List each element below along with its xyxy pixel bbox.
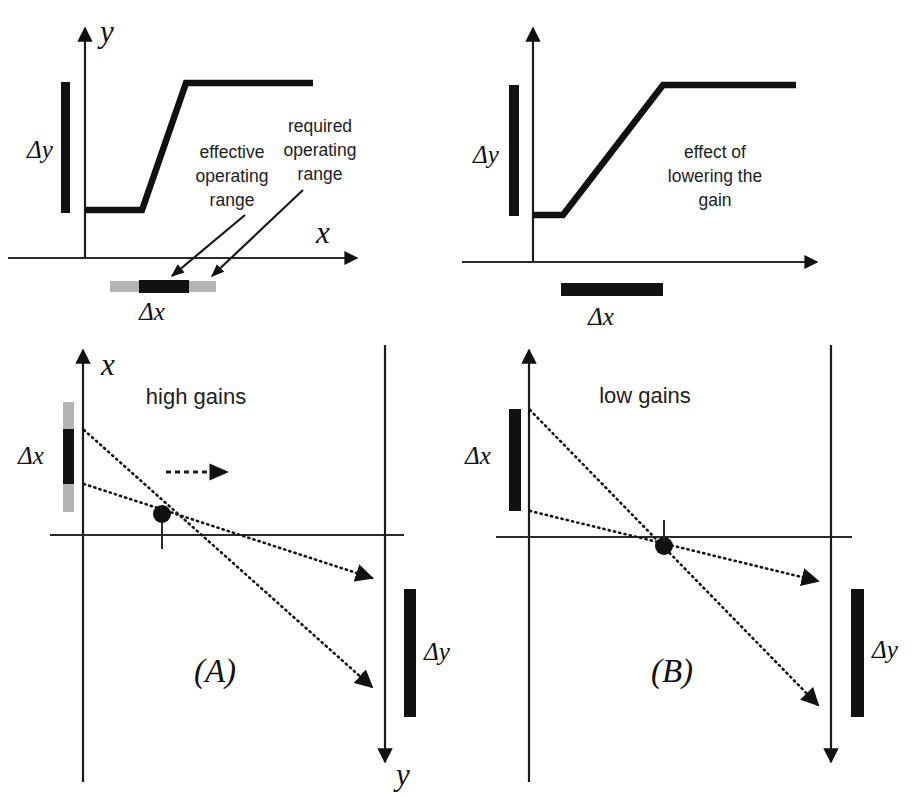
top-right-delta-x-label: Δx bbox=[587, 303, 614, 330]
bottom-left-panel: x y Δx high gains Δy (A) bbox=[17, 345, 451, 792]
top-left-delta-x-label: Δx bbox=[138, 298, 165, 325]
top-left-delta-y-label: Δy bbox=[26, 136, 54, 163]
panel-b-delta-y-label: Δy bbox=[871, 636, 899, 663]
top-right-panel: Δy Δx effect of lowering the gain bbox=[462, 28, 817, 330]
top-right-delta-y-bar bbox=[509, 85, 519, 216]
panel-a-delta-y-label: Δy bbox=[423, 638, 451, 665]
top-left-y-axis-label: y bbox=[97, 14, 114, 49]
top-left-x-axis-label: x bbox=[315, 215, 330, 250]
panel-a-ray-lower bbox=[84, 484, 372, 578]
annot-effect-line-1: effect of bbox=[684, 142, 746, 162]
panel-a-caption: high gains bbox=[146, 384, 246, 409]
annot-required-line-2: operating bbox=[284, 140, 357, 160]
panel-a-operating-point bbox=[153, 505, 171, 523]
top-right-saturation-curve bbox=[533, 85, 796, 215]
panel-a-label: (A) bbox=[194, 653, 236, 690]
top-left-effective-range-bar bbox=[139, 280, 189, 293]
annot-effective-line-2: operating bbox=[196, 166, 269, 186]
annot-required-line-1: required bbox=[288, 116, 352, 136]
panel-a-x-axis-label: x bbox=[100, 347, 115, 382]
panel-a-delta-x-black-bar bbox=[63, 429, 74, 484]
panel-a-delta-y-bar bbox=[404, 589, 416, 717]
panel-b-delta-y-bar bbox=[851, 589, 864, 717]
annot-effective-line-3: range bbox=[210, 190, 255, 210]
annot-required-line-3: range bbox=[298, 164, 343, 184]
annot-effective-arrow bbox=[172, 215, 245, 276]
top-right-delta-y-label: Δy bbox=[472, 141, 500, 168]
top-right-delta-x-bar bbox=[561, 283, 663, 296]
diagram-canvas: y x Δy Δx effective operating range requ… bbox=[0, 0, 922, 797]
panel-b-delta-x-bar bbox=[509, 409, 521, 511]
panel-a-y-axis-label: y bbox=[393, 757, 410, 792]
panel-b-label: (B) bbox=[651, 653, 693, 690]
annot-effect-line-3: gain bbox=[698, 190, 731, 210]
top-left-delta-y-bar bbox=[61, 82, 70, 213]
panel-a-ray-upper bbox=[84, 430, 372, 687]
panel-b-caption: low gains bbox=[599, 383, 691, 408]
panel-b-delta-x-label: Δx bbox=[464, 442, 491, 469]
top-left-panel: y x Δy Δx effective operating range requ… bbox=[8, 14, 357, 325]
bottom-right-panel: Δx low gains Δy (B) bbox=[464, 345, 899, 782]
panel-a-delta-x-label: Δx bbox=[17, 442, 44, 469]
annot-effect-line-2: lowering the bbox=[668, 166, 762, 186]
panel-b-ray-lower bbox=[530, 511, 818, 581]
figure-root: y x Δy Δx effective operating range requ… bbox=[0, 0, 922, 797]
annot-effective-line-1: effective bbox=[200, 142, 265, 162]
